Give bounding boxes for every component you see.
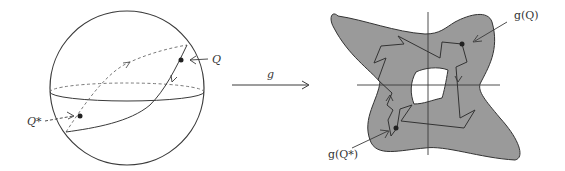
path-direction-arrow-front [171, 75, 177, 82]
point-g-q [460, 42, 465, 47]
label-g-q-text: g(Q) [514, 9, 539, 22]
sphere-outline [50, 11, 204, 165]
point-q-star [78, 114, 83, 119]
equator-front [50, 92, 204, 101]
label-g-q-star-text: g(Q*) [328, 148, 358, 161]
map-label-g: g [267, 68, 274, 81]
image-region: g(Q) g(Q*) [328, 9, 539, 161]
point-g-q-star [394, 126, 399, 131]
map-arrow: g [232, 68, 309, 89]
equator-back-dashed [50, 83, 204, 92]
label-q-star: Q* [27, 115, 42, 128]
label-g-q-star: g(Q*) [328, 148, 358, 161]
sphere: Q Q* [27, 11, 221, 165]
mapping-diagram: Q Q* g g(Q) g(Q*) [0, 0, 565, 171]
great-circle-front [66, 45, 187, 132]
great-circle-back-dashed [66, 45, 187, 132]
label-q: Q [212, 53, 221, 66]
point-q [179, 58, 184, 63]
pointer-q-star-head [67, 112, 74, 119]
label-g-q: g(Q) [514, 9, 539, 22]
pointer-q [190, 59, 208, 60]
